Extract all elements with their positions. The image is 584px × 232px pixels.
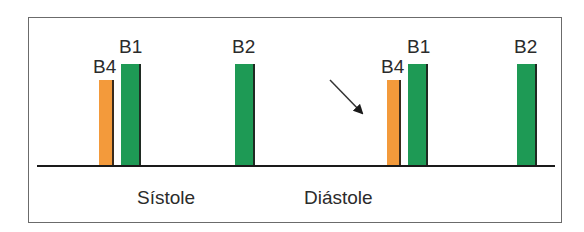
diastole-label: Diástole <box>304 188 373 207</box>
arrow-icon <box>0 0 584 232</box>
systole-label: Sístole <box>137 188 195 207</box>
